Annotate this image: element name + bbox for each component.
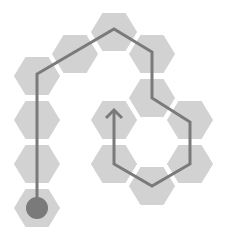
hex-tile [90, 12, 138, 51]
start-marker-icon [26, 197, 48, 219]
hex-grid-canvas [0, 0, 233, 246]
hex-path-diagram [0, 0, 233, 246]
hex-tile [51, 34, 99, 73]
